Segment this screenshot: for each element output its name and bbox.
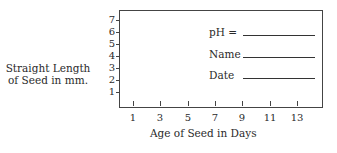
ph-field[interactable] [243,35,315,36]
x-tick-label-9: 9 [232,113,252,123]
x-tick-label-5: 5 [178,113,198,123]
x-tick-label-7: 7 [205,113,225,123]
x-tick-label-1: 1 [123,113,143,123]
x-axis-label: Age of Seed in Days [150,127,257,139]
y-tick-5 [116,44,120,45]
y-axis-label: Straight Length of Seed in mm. [4,62,92,86]
y-tick-4 [116,56,120,57]
x-tick-3 [160,101,161,106]
y-tick-1 [116,92,120,93]
x-tick-label-3: 3 [150,113,170,123]
y-axis-label-line-2: of Seed in mm. [4,74,92,86]
y-tick-6 [116,32,120,33]
x-tick-1 [133,101,134,106]
x-tick-13 [297,101,298,106]
y-tick-3 [116,68,120,69]
y-tick-label-1: 1 [106,87,115,97]
name-field[interactable] [243,57,315,58]
y-tick-label-3: 3 [106,63,115,73]
ph-label: pH = [209,26,237,38]
y-tick-7 [116,20,120,21]
y-tick-label-4: 4 [106,51,115,61]
name-label: Name [209,48,241,60]
x-tick-11 [270,101,271,106]
x-tick-label-11: 11 [260,113,280,123]
date-label: Date [209,69,234,81]
y-tick-label-6: 6 [106,27,115,37]
date-field[interactable] [243,78,315,79]
x-tick-7 [215,101,216,106]
y-axis-label-line-1: Straight Length [4,62,92,74]
x-tick-9 [242,101,243,106]
y-tick-label-5: 5 [106,39,115,49]
y-tick-label-7: 7 [106,15,115,25]
y-tick-2 [116,80,120,81]
x-tick-label-13: 13 [287,113,307,123]
y-tick-label-2: 2 [106,75,115,85]
x-tick-5 [188,101,189,106]
